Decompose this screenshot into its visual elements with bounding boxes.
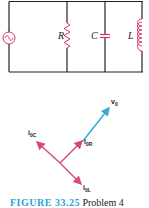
capacitor-icon (100, 35, 110, 38)
resistor-label: R (57, 30, 64, 41)
circuit-wires (9, 2, 143, 73)
inductor-icon (138, 19, 143, 51)
i0l-label: i0L (83, 184, 91, 193)
v0-label: v0 (111, 98, 118, 107)
i0c-phasor (37, 142, 60, 163)
i0r-label: i0R (84, 138, 93, 147)
resistor-icon (64, 23, 70, 48)
capacitor-label: C (91, 30, 98, 41)
v0-phasor (83, 108, 109, 141)
inductor-label: L (127, 30, 134, 41)
caption-text: Problem 4 (82, 197, 123, 208)
circuit-and-phasor-diagram: R C L v0 i0C i0R i0L (0, 0, 149, 208)
i0l-phasor (60, 163, 81, 184)
figure-caption: FIGURE 33.25 Problem 4 (10, 197, 124, 208)
figure-number: FIGURE 33.25 (10, 197, 80, 208)
ac-source-icon (3, 32, 15, 44)
i0r-phasor (60, 141, 82, 163)
i0c-label: i0C (28, 129, 37, 138)
